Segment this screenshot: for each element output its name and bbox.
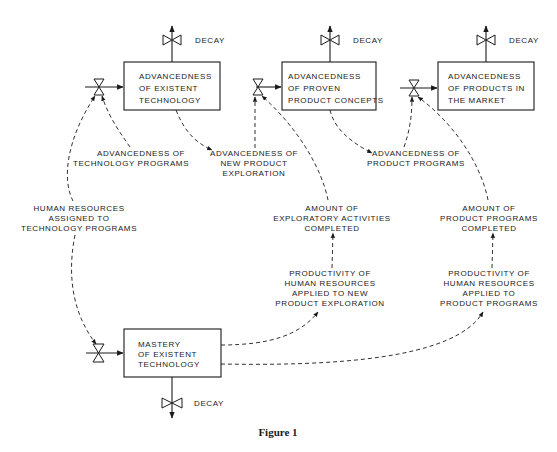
svg-text:PRODUCT EXPLORATION: PRODUCT EXPLORATION [275,299,384,308]
svg-text:AMOUNT OF: AMOUNT OF [305,204,358,213]
svg-text:ADVANCEDNESS OF: ADVANCEDNESS OF [210,149,298,158]
stock-label: TECHNOLOGY [138,360,200,369]
svg-text:TECHNOLOGY PROGRAMS: TECHNOLOGY PROGRAMS [21,224,137,233]
stock-proven-product-concepts: ADVANCEDNESS OF PROVEN PRODUCT CONCEPTS [282,62,384,110]
svg-text:NEW PRODUCT: NEW PRODUCT [220,159,287,168]
svg-text:PRODUCT PROGRAMS: PRODUCT PROGRAMS [440,214,538,223]
svg-text:ASSIGNED TO: ASSIGNED TO [49,214,110,223]
stock-label: OF EXISTENT [138,350,197,359]
svg-text:HUMAN RESOURCES: HUMAN RESOURCES [443,279,534,288]
svg-text:PRODUCT PROGRAMS: PRODUCT PROGRAMS [440,299,538,308]
aux-amount-product-programs: AMOUNT OF PRODUCT PROGRAMS COMPLETED [440,204,538,233]
decay-label: DECAY [195,36,225,45]
stock-flow-diagram: ADVANCEDNESS OF EXISTENT TECHNOLOGY DECA… [0,0,557,452]
svg-text:EXPLORATORY ACTIVITIES: EXPLORATORY ACTIVITIES [273,214,391,223]
stock-label: THE MARKET [448,96,506,105]
svg-text:HUMAN RESOURCES: HUMAN RESOURCES [33,204,124,213]
stock-label: PRODUCT CONCEPTS [288,96,384,105]
svg-text:PRODUCTIVITY OF: PRODUCTIVITY OF [289,269,371,278]
stock-label: ADVANCEDNESS [288,72,361,81]
svg-text:ADVANCEDNESS OF: ADVANCEDNESS OF [372,149,460,158]
stock-products-in-market: ADVANCEDNESS OF PRODUCTS IN THE MARKET [438,62,534,110]
stock-label: OF EXISTENT [139,84,198,93]
svg-text:PRODUCTIVITY OF: PRODUCTIVITY OF [448,269,530,278]
aux-advancedness-product-programs: ADVANCEDNESS OF PRODUCT PROGRAMS [367,149,465,168]
decay-label: DECAY [194,399,224,408]
svg-text:APPLIED TO NEW: APPLIED TO NEW [292,289,368,298]
svg-text:COMPLETED: COMPLETED [304,224,359,233]
figure-caption: Figure 1 [258,426,297,438]
stock-label: MASTERY [138,340,181,349]
stock-label: OF PRODUCTS IN [448,84,525,93]
svg-text:APPLIED TO: APPLIED TO [463,289,516,298]
svg-text:ADVANCEDNESS OF: ADVANCEDNESS OF [97,149,185,158]
stock-existent-technology: ADVANCEDNESS OF EXISTENT TECHNOLOGY [124,62,220,110]
svg-text:TECHNOLOGY PROGRAMS: TECHNOLOGY PROGRAMS [73,159,189,168]
svg-text:AMOUNT OF: AMOUNT OF [462,204,515,213]
stock-label: ADVANCEDNESS [139,72,212,81]
stock-label: OF PROVEN [288,84,341,93]
svg-text:EXPLORATION: EXPLORATION [223,169,286,178]
aux-amount-exploratory-activities: AMOUNT OF EXPLORATORY ACTIVITIES COMPLET… [273,204,391,233]
aux-human-resources-assigned: HUMAN RESOURCES ASSIGNED TO TECHNOLOGY P… [21,204,137,233]
svg-text:PRODUCT PROGRAMS: PRODUCT PROGRAMS [367,159,465,168]
aux-productivity-new-product-exploration: PRODUCTIVITY OF HUMAN RESOURCES APPLIED … [275,269,384,308]
svg-text:HUMAN RESOURCES: HUMAN RESOURCES [284,279,375,288]
svg-text:COMPLETED: COMPLETED [461,224,516,233]
decay-label: DECAY [509,36,539,45]
stock-mastery-existent-technology: MASTERY OF EXISTENT TECHNOLOGY [124,329,221,377]
stock-label: ADVANCEDNESS [448,72,521,81]
decay-label: DECAY [353,36,383,45]
stock-label: TECHNOLOGY [139,96,201,105]
aux-productivity-product-programs: PRODUCTIVITY OF HUMAN RESOURCES APPLIED … [440,269,538,308]
aux-advancedness-new-product-exploration: ADVANCEDNESS OF NEW PRODUCT EXPLORATION [210,149,298,178]
aux-advancedness-technology-programs: ADVANCEDNESS OF TECHNOLOGY PROGRAMS [73,149,189,168]
